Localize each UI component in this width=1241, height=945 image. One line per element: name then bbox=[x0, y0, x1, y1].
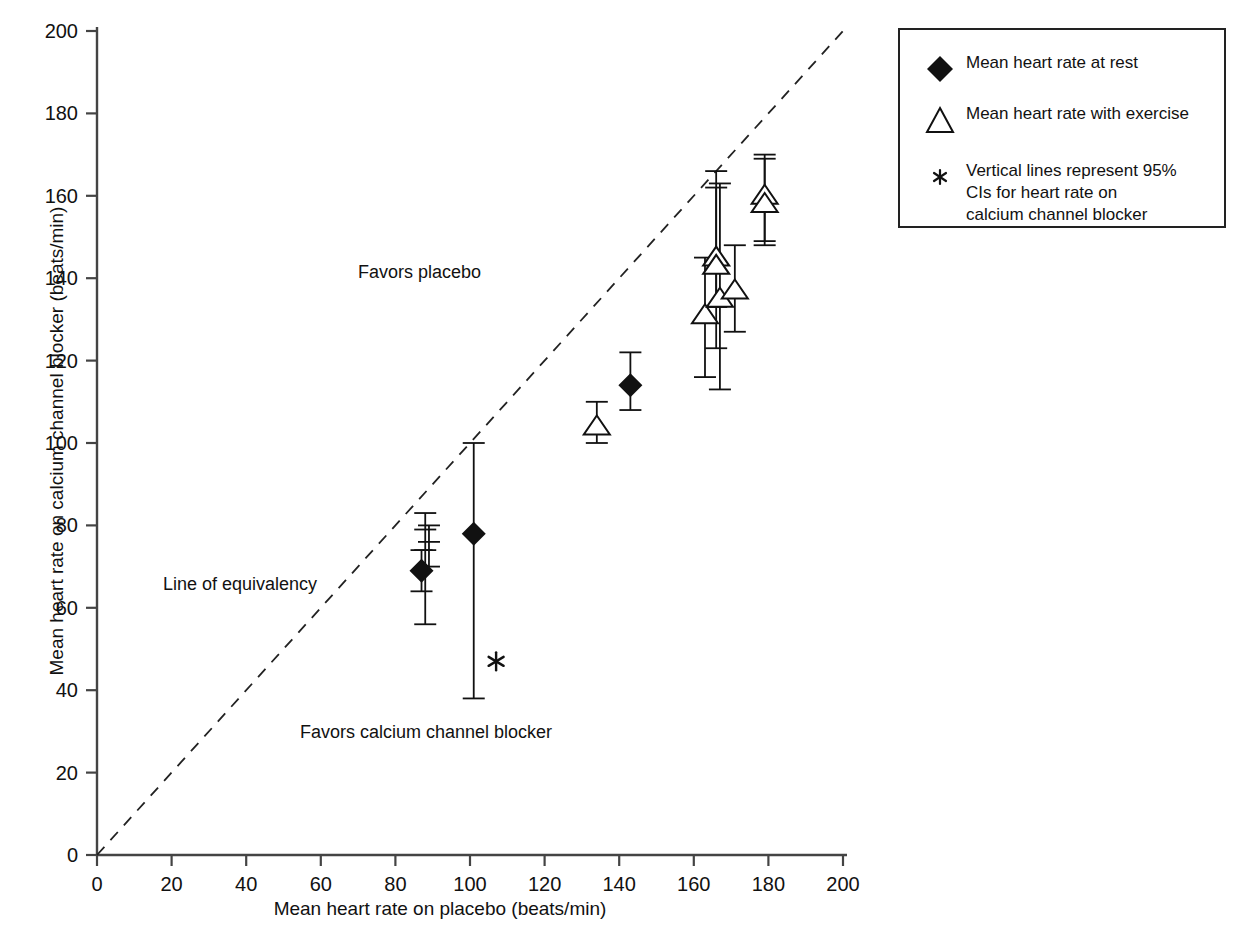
x-axis-tick-label: 100 bbox=[453, 873, 486, 895]
x-axis-tick-label: 160 bbox=[677, 873, 710, 895]
x-axis-title: Mean heart rate on placebo (beats/min) bbox=[0, 898, 880, 920]
x-axis-tick-label: 140 bbox=[603, 873, 636, 895]
y-axis-title: Mean heart rate on calcium channel block… bbox=[46, 131, 68, 751]
annotation-favors-calcium-channel-blocker: Favors calcium channel blocker bbox=[300, 722, 552, 743]
x-axis-tick-label: 60 bbox=[310, 873, 332, 895]
x-axis-tick-label: 200 bbox=[826, 873, 859, 895]
x-axis-tick-label: 80 bbox=[384, 873, 406, 895]
annotation-line-of-equivalency: Line of equivalency bbox=[163, 574, 317, 595]
y-axis-tick-label: 180 bbox=[45, 102, 78, 124]
data-point-exercise bbox=[722, 280, 748, 299]
x-axis-tick-label: 0 bbox=[91, 873, 102, 895]
chart-legend: Mean heart rate at rest Mean heart rate … bbox=[898, 28, 1226, 228]
legend-item-exercise: Mean heart rate with exercise bbox=[914, 103, 1189, 135]
x-axis-tick-label: 40 bbox=[235, 873, 257, 895]
legend-item-label: Mean heart rate with exercise bbox=[966, 103, 1189, 125]
open-triangle-icon bbox=[914, 103, 966, 135]
filled-diamond-icon bbox=[914, 52, 966, 84]
chart-figure: 0204060801001201401601802000204060801001… bbox=[0, 0, 1241, 945]
legend-item-confidence-intervals: Vertical lines represent 95% CIs for hea… bbox=[914, 160, 1177, 226]
data-point-rest bbox=[618, 373, 642, 397]
asterisk-icon bbox=[914, 160, 966, 192]
annotation-favors-placebo: Favors placebo bbox=[358, 262, 481, 283]
data-point-exercise bbox=[584, 416, 610, 435]
legend-item-label: Mean heart rate at rest bbox=[966, 52, 1138, 74]
y-axis-tick-label: 200 bbox=[45, 20, 78, 42]
x-axis-tick-label: 20 bbox=[160, 873, 182, 895]
data-point-rest bbox=[410, 559, 434, 583]
y-axis-tick-label: 0 bbox=[67, 844, 78, 866]
x-axis-tick-label: 180 bbox=[752, 873, 785, 895]
y-axis-tick-label: 20 bbox=[56, 762, 78, 784]
legend-item-label: Vertical lines represent 95% CIs for hea… bbox=[966, 160, 1177, 226]
legend-item-rest: Mean heart rate at rest bbox=[914, 52, 1138, 84]
x-axis-tick-label: 120 bbox=[528, 873, 561, 895]
data-point-rest bbox=[462, 522, 486, 546]
asterisk-icon bbox=[489, 652, 504, 670]
